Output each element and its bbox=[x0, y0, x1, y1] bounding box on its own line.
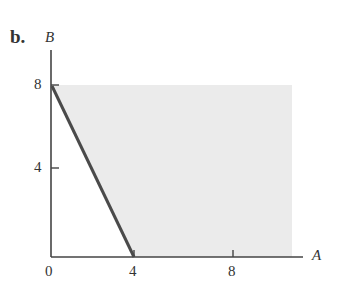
part-label: b. bbox=[10, 26, 25, 48]
y-axis-label: B bbox=[45, 29, 54, 46]
x-axis-label: A bbox=[312, 247, 321, 264]
x-tick-label-8: 8 bbox=[228, 263, 236, 280]
x-tick-label-4: 4 bbox=[129, 263, 137, 280]
x-tick-label-0: 0 bbox=[45, 263, 53, 280]
y-tick-label-4: 4 bbox=[34, 159, 42, 176]
shaded-region bbox=[51, 85, 292, 257]
y-tick-label-8: 8 bbox=[34, 76, 42, 93]
